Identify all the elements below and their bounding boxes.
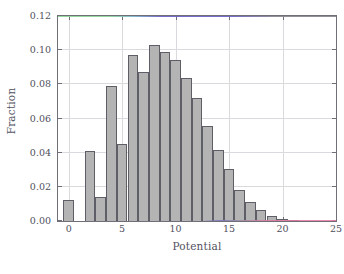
x-tick-label: 0 [66, 224, 72, 234]
y-tick-label: 0.06 [30, 114, 51, 124]
histogram-bar [95, 197, 106, 221]
y-tick-label: 0.10 [30, 45, 51, 55]
histogram-bar [202, 126, 213, 221]
x-tick-label: 15 [223, 224, 235, 234]
x-tick-label: 5 [119, 224, 125, 234]
y-tick-label: 0.02 [30, 182, 51, 192]
y-tick-label: 0.08 [30, 80, 51, 90]
histogram-bar [170, 60, 181, 221]
y-axis-tick-labels: 0.000.020.040.060.080.100.12 [18, 0, 54, 240]
x-tick-label: 20 [276, 224, 288, 234]
histogram-bar [224, 169, 235, 221]
histogram-bar [267, 216, 278, 221]
y-tick-label: 0.04 [30, 148, 51, 158]
x-axis-title: Potential [57, 240, 337, 252]
histogram-bar [256, 210, 267, 221]
histogram-bar [234, 190, 245, 221]
histogram-bar [245, 202, 256, 221]
histogram-bar [288, 220, 299, 221]
tick-mark-x [336, 217, 337, 221]
x-tick-label: 25 [330, 224, 342, 234]
plot-area [57, 15, 337, 222]
histogram-bar [181, 78, 192, 221]
histogram-bar [160, 52, 171, 221]
histogram-bar [192, 98, 203, 221]
histogram-bars [58, 16, 336, 221]
histogram-bar [63, 200, 74, 221]
histogram-bar [277, 219, 288, 221]
x-tick-label: 10 [170, 224, 182, 234]
y-tick-label: 0.00 [30, 216, 51, 226]
histogram-bar [85, 151, 96, 221]
histogram-bar [128, 55, 139, 221]
histogram-bar [138, 72, 149, 221]
y-axis-title-text: Fraction [5, 88, 17, 135]
histogram-bar [149, 45, 160, 221]
x-axis-tick-labels: 0510152025 [57, 224, 337, 240]
cut-off-caption [0, 264, 344, 274]
histogram-figure: Fraction 0.000.020.040.060.080.100.12 05… [0, 0, 344, 274]
histogram-bar [106, 86, 117, 221]
y-tick-label: 0.12 [30, 11, 51, 21]
histogram-bar [213, 150, 224, 221]
tick-mark-x-top [336, 16, 337, 20]
histogram-bar [117, 144, 128, 221]
